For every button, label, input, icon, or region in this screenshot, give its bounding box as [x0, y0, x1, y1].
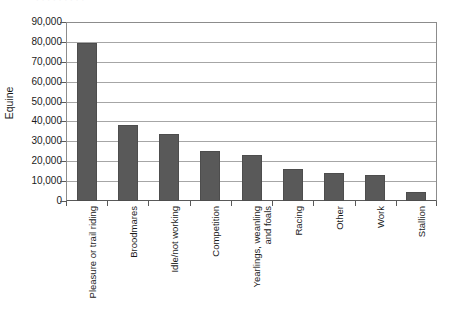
x-axis-category-label: Pleasure or trail riding — [66, 206, 107, 321]
y-axis-tick-label: 10,000 — [14, 176, 62, 186]
equine-bar-chart: · · · · · · · · · Equine 90,00080,00070,… — [0, 0, 457, 321]
x-axis-category-label-text: Competition — [210, 206, 221, 318]
x-axis-category-labels: Pleasure or trail ridingBroodmaresIdle/n… — [66, 206, 437, 321]
cut-off-title-remnant: · · · · · · · · · — [36, 0, 266, 4]
x-axis-category-label-text: Broodmares — [128, 206, 139, 318]
y-axis-tick-label: 50,000 — [14, 97, 62, 107]
bar — [283, 169, 303, 201]
bar — [118, 125, 138, 201]
bar — [200, 151, 220, 201]
x-axis-category-label-text: Idle/not working — [169, 206, 180, 318]
x-axis-category-label: Yearlings, weanling and foals — [231, 206, 272, 321]
x-axis-category-label: Idle/not working — [148, 206, 189, 321]
x-axis-category-label-text: Yearlings, weanling and foals — [251, 206, 273, 318]
bar — [324, 173, 344, 201]
bar — [406, 192, 426, 201]
y-axis-tick-label: 70,000 — [14, 57, 62, 67]
bar — [242, 155, 262, 201]
x-axis-category-label-text: Work — [375, 206, 386, 318]
y-axis-tick-label: 20,000 — [14, 156, 62, 166]
bar — [77, 43, 97, 201]
bar — [159, 134, 179, 201]
x-axis-category-label-text: Other — [334, 206, 345, 318]
x-axis-category-label-text: Pleasure or trail riding — [87, 206, 98, 318]
x-axis-category-label: Competition — [190, 206, 231, 321]
y-axis-tick-label: 60,000 — [14, 77, 62, 87]
bar — [365, 175, 385, 201]
x-axis-category-label: Stallion — [396, 206, 437, 321]
y-axis-tick-labels: 90,00080,00070,00060,00050,00040,00030,0… — [14, 22, 62, 201]
y-axis-tick-label: 0 — [14, 196, 62, 206]
x-axis-category-label-text: Stallion — [416, 206, 427, 318]
x-axis-category-label: Racing — [272, 206, 313, 321]
y-axis-tick-label: 90,000 — [14, 17, 62, 27]
x-axis-category-label: Work — [355, 206, 396, 321]
y-axis-tick-label: 30,000 — [14, 136, 62, 146]
y-axis-tick-label: 40,000 — [14, 116, 62, 126]
x-axis-category-label: Broodmares — [107, 206, 148, 321]
x-axis-category-label-text: Racing — [293, 206, 304, 318]
y-axis-tick-label: 80,000 — [14, 37, 62, 47]
bar-series — [66, 22, 437, 201]
x-axis-category-label: Other — [313, 206, 354, 321]
